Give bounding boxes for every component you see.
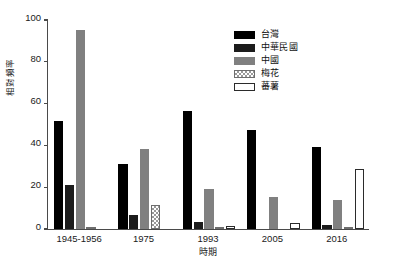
chart-legend: 台灣中華民國中國梅花蕃薯 — [229, 24, 307, 98]
y-tick-label: 80 — [30, 54, 41, 64]
bar-中華民國-1945-1956 — [65, 185, 74, 229]
y-axis-label: 相對頻率 — [6, 36, 15, 96]
legend-label: 中華民國 — [261, 43, 298, 52]
bar-中華民國-1993 — [194, 222, 203, 229]
legend-label: 台灣 — [261, 30, 279, 39]
chart-figure: 相對頻率 020406080100 時期 台灣中華民國中國梅花蕃薯 1945-1… — [0, 0, 393, 269]
bar-台灣-1975 — [118, 164, 127, 229]
legend-label: 中國 — [261, 56, 279, 65]
bar-中國-1975 — [140, 149, 149, 229]
x-tick-label: 1945-1956 — [56, 234, 101, 244]
y-tick-label: 40 — [30, 138, 41, 148]
legend-swatch-icon — [234, 57, 255, 65]
legend-swatch-icon — [234, 83, 255, 91]
x-tick-label: 2016 — [326, 234, 347, 244]
legend-item-台灣: 台灣 — [234, 28, 302, 41]
legend-item-蕃薯: 蕃薯 — [234, 80, 302, 93]
bar-台灣-2005 — [247, 130, 256, 229]
plot-area — [48, 21, 369, 229]
bar-台灣-1945-1956 — [54, 121, 63, 229]
bar-梅花-2016 — [344, 227, 353, 229]
bar-台灣-1993 — [183, 111, 192, 229]
y-tick-label: 100 — [25, 13, 41, 23]
legend-item-中國: 中國 — [234, 54, 302, 67]
bar-梅花-1945-1956 — [86, 227, 95, 229]
legend-item-梅花: 梅花 — [234, 67, 302, 80]
bar-中華民國-2016 — [322, 225, 331, 229]
x-tick-label: 2005 — [262, 234, 283, 244]
bar-台灣-2016 — [312, 147, 321, 229]
legend-swatch-icon — [234, 31, 255, 39]
bar-中國-1945-1956 — [76, 30, 85, 229]
legend-swatch-icon — [234, 70, 255, 78]
bar-中國-2016 — [333, 200, 342, 229]
y-tick-label: 20 — [30, 180, 41, 190]
bar-蕃薯-1993 — [226, 226, 235, 229]
legend-item-中華民國: 中華民國 — [234, 41, 302, 54]
bar-梅花-1993 — [215, 227, 224, 229]
plot-frame: 020406080100 — [47, 21, 369, 230]
bar-蕃薯-2005 — [290, 223, 299, 229]
bar-中國-1993 — [204, 189, 213, 229]
legend-label: 梅花 — [261, 69, 279, 78]
bar-蕃薯-2016 — [355, 169, 364, 229]
bar-中國-2005 — [269, 197, 278, 229]
bar-中華民國-1975 — [129, 215, 138, 229]
x-axis-label: 時期 — [199, 247, 218, 257]
x-tick-label: 1975 — [133, 234, 154, 244]
bar-梅花-1975 — [151, 205, 160, 229]
legend-label: 蕃薯 — [261, 82, 279, 91]
x-tick-label: 1993 — [197, 234, 218, 244]
legend-swatch-icon — [234, 44, 255, 52]
y-tick-label: 0 — [36, 222, 41, 232]
y-tick-label: 60 — [30, 96, 41, 106]
